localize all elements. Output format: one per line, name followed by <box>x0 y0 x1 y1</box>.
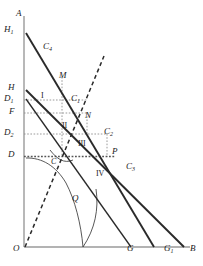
region-2-label: II <box>62 122 67 130</box>
isoquant-group <box>26 150 97 247</box>
origin-label: O <box>13 244 20 253</box>
expansion-path-dashed <box>25 56 104 247</box>
point-g-label: G <box>127 244 134 253</box>
axis-a-label: A <box>16 9 22 18</box>
point-m-label: M <box>59 71 67 80</box>
figure-container: O A B G G1 H1 H D1 F D2 D C4 C1 C2 C3 C <box>0 0 203 266</box>
label-c-intersection: C <box>51 158 56 166</box>
point-d-label: D <box>8 150 15 159</box>
point-f-label: F <box>9 107 15 116</box>
diagram-svg <box>0 0 203 266</box>
dotted-guides-group <box>24 77 107 157</box>
point-q-label: Q <box>72 194 79 203</box>
point-d2-label: D2 <box>4 128 14 137</box>
isoquant-outer <box>83 189 97 247</box>
point-h-label: H <box>8 83 15 92</box>
point-p-label: P <box>112 147 118 156</box>
region-4-label: IV <box>96 170 104 178</box>
point-n-label: N <box>85 111 91 120</box>
budget-lines-group <box>26 33 184 247</box>
axis-b-label: B <box>190 244 196 253</box>
budget-line-c2-c3 <box>26 90 184 247</box>
label-c3: C3 <box>126 162 135 171</box>
label-c4: C4 <box>43 42 52 51</box>
point-d1-label: D1 <box>4 94 14 103</box>
region-1-label: I <box>41 92 43 100</box>
label-c2: C2 <box>104 127 113 136</box>
point-g1-label: G1 <box>164 244 174 253</box>
region-3-label: III <box>78 140 85 148</box>
budget-line-c4 <box>26 33 154 247</box>
label-c1: C1 <box>71 94 80 103</box>
point-h1-label: H1 <box>4 25 14 34</box>
